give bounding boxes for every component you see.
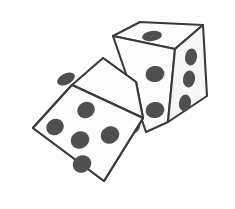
dice-illustration: Two dice xyxy=(0,0,235,209)
dice-canvas xyxy=(0,0,235,209)
